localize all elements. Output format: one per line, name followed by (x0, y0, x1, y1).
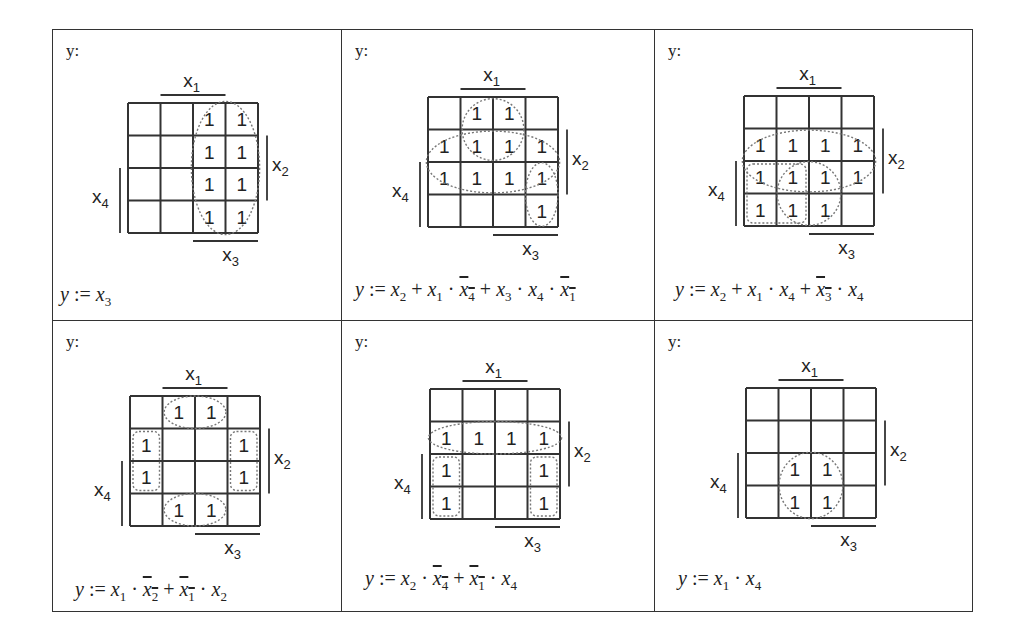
cell-value: 1 (789, 459, 800, 480)
minimized-formula: y := x1 · x4 (678, 567, 761, 594)
var-label-x2: x2 (890, 439, 907, 464)
kmap-grid: 1111x1x2x3x4 (0, 0, 1021, 638)
cell-value: 1 (789, 492, 800, 513)
var-label-x4: x4 (710, 471, 727, 496)
cell-value: 1 (822, 492, 833, 513)
var-label-x3: x3 (840, 529, 857, 554)
cell-value: 1 (822, 459, 833, 480)
kmap-figure: y:11111111x1x2x3x4y := x3y:11111111111x1… (0, 0, 1021, 638)
var-label-x1: x1 (801, 355, 818, 380)
